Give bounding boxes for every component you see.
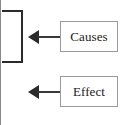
arrow-left-causes-icon	[28, 30, 60, 44]
diagram-canvas: Causes Effect	[0, 0, 121, 125]
node-box-effect[interactable]: Effect	[60, 76, 118, 107]
bracket-vertical-stem	[21, 10, 23, 63]
bracket-bottom-arm	[2, 61, 23, 63]
bracket-top-arm	[2, 10, 23, 12]
node-label-causes: Causes	[70, 30, 107, 43]
node-box-causes[interactable]: Causes	[60, 21, 118, 52]
arrow-shaft-effect	[38, 91, 60, 93]
arrow-left-effect-icon	[28, 85, 60, 99]
left-edge-rule	[0, 0, 1, 125]
arrow-shaft-causes	[38, 36, 60, 38]
node-label-effect: Effect	[73, 85, 105, 98]
